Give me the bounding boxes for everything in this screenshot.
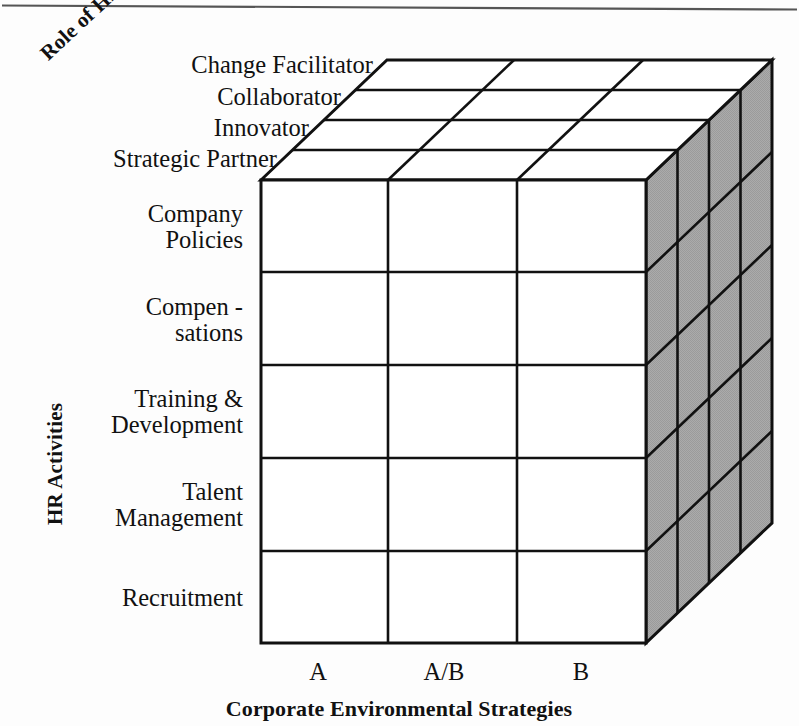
- xtick-ab: A/B: [424, 659, 465, 685]
- axis-title-corporate-environmental-strategies: Corporate Environmental Strategies: [226, 697, 572, 720]
- activity-label-talent-management: Talent Management: [115, 479, 243, 531]
- activity-label-compensations: Compen - sations: [146, 294, 243, 346]
- activity-label-line-1: Company: [148, 201, 243, 227]
- activity-label-company-policies: Company Policies: [148, 201, 243, 253]
- role-category-innovator: Innovator: [214, 115, 309, 141]
- hr-cube-graphic: [0, 0, 799, 726]
- xtick-a: A: [309, 659, 327, 685]
- diagram-canvas: Role of HR Change Facilitator Collaborat…: [0, 0, 799, 726]
- activity-label-line-1: Recruitment: [122, 585, 243, 611]
- activity-label-line-2: Development: [111, 412, 243, 438]
- cube-front-face: [261, 180, 646, 643]
- axis-title-hr-activities: HR Activities: [44, 403, 66, 525]
- activity-label-line-2: sations: [146, 320, 243, 346]
- activity-label-line-2: Policies: [148, 227, 243, 253]
- activity-label-recruitment: Recruitment: [122, 585, 243, 611]
- xtick-b: B: [573, 659, 589, 685]
- role-category-strategic-partner: Strategic Partner: [113, 146, 277, 172]
- activity-label-line-2: Management: [115, 505, 243, 531]
- activity-label-line-1: Talent: [115, 479, 243, 505]
- role-category-collaborator: Collaborator: [217, 84, 341, 110]
- activity-label-line-1: Compen -: [146, 294, 243, 320]
- header-rule: [2, 6, 797, 10]
- role-category-change-facilitator: Change Facilitator: [191, 52, 373, 78]
- activity-label-training-development: Training & Development: [111, 386, 243, 438]
- activity-label-line-1: Training &: [111, 386, 243, 412]
